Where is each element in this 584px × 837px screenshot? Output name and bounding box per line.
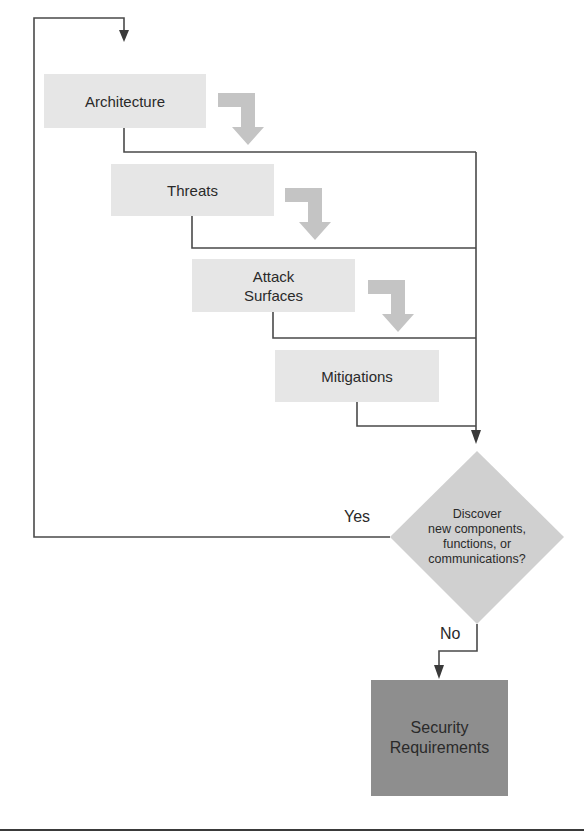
mitigations-connector	[357, 402, 476, 426]
attack-surfaces-connector	[273, 312, 476, 338]
no-label: No	[440, 625, 460, 643]
step-attack-surfaces: Attack Surfaces	[192, 259, 355, 312]
threats-connector	[192, 216, 476, 248]
bent-arrow-icon	[218, 93, 264, 145]
arrowhead-icon	[471, 430, 481, 444]
outcome-security-requirements: Security Requirements	[371, 680, 508, 796]
bent-arrow-icon	[285, 188, 331, 240]
decision-line4: communications?	[404, 552, 550, 567]
decision-line2: new components,	[404, 522, 550, 537]
step-label: Mitigations	[321, 367, 393, 386]
architecture-connector	[124, 128, 476, 152]
decision-line3: functions, or	[404, 537, 550, 552]
step-label: Threats	[167, 181, 218, 200]
step-architecture: Architecture	[44, 74, 206, 128]
decision-text: Discover new components, functions, or c…	[404, 507, 550, 567]
bent-arrow-icon	[368, 280, 414, 332]
step-mitigations: Mitigations	[275, 350, 439, 402]
step-label-line2: Surfaces	[244, 286, 303, 305]
step-label-line1: Attack	[253, 267, 295, 286]
step-label: Architecture	[85, 92, 165, 111]
outcome-line2: Requirements	[390, 738, 490, 758]
step-threats: Threats	[111, 164, 274, 216]
arrowhead-icon	[119, 30, 129, 42]
outcome-line1: Security	[411, 718, 469, 738]
decision-line1: Discover	[404, 507, 550, 522]
yes-label: Yes	[344, 508, 370, 526]
arrowhead-icon	[434, 665, 444, 679]
